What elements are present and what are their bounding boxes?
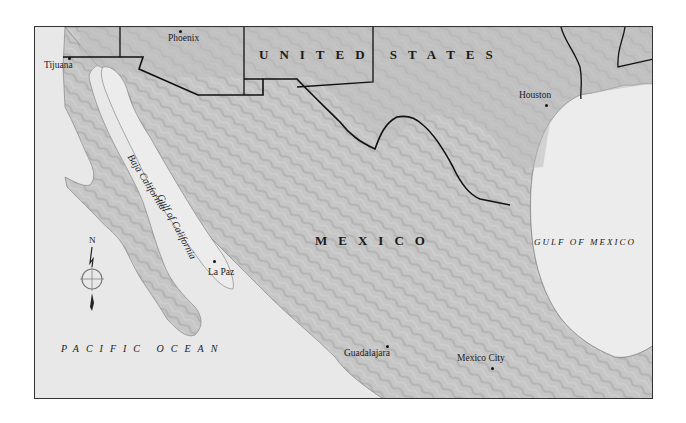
city-marker-mexico-city [491, 367, 494, 370]
label-gulf-of-mexico: GULF OF MEXICO [534, 237, 636, 247]
label-mexico: MEXICO [315, 233, 436, 249]
compass-rose-icon [79, 245, 105, 311]
label-united-states: UNITED STATES [259, 47, 504, 63]
label-phoenix: Phoenix [168, 33, 199, 43]
city-marker-la-paz [213, 260, 216, 263]
label-guadalajara: Guadalajara [344, 348, 390, 358]
label-tijuana: Tijuana [44, 60, 73, 70]
label-la-paz: La Paz [208, 267, 234, 277]
compass-north-label: N [89, 235, 96, 245]
city-marker-houston [545, 104, 548, 107]
label-houston: Houston [519, 90, 551, 100]
map-frame: UNITED STATES MEXICO GULF OF MEXICO PACI… [34, 26, 653, 399]
label-pacific-ocean: PACIFIC OCEAN [61, 343, 224, 354]
label-mexico-city: Mexico City [457, 353, 505, 363]
